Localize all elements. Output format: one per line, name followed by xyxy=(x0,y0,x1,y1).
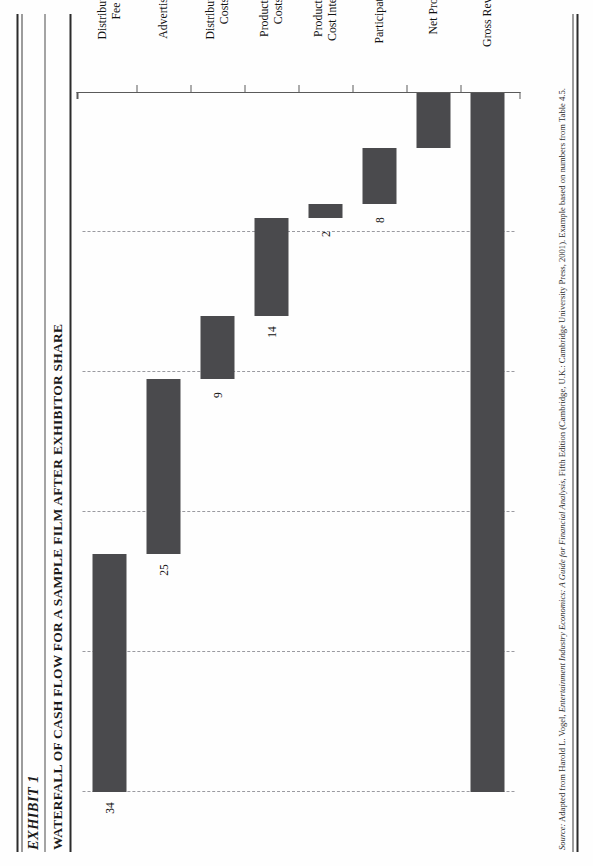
category-label-production-cost-interest: Production Cost Interest xyxy=(311,0,339,86)
rule-bottom-outer xyxy=(576,14,578,852)
bar-value-label: 25 xyxy=(157,564,169,576)
bar-value-label: 34 xyxy=(103,802,115,814)
exhibit-page: EXHIBIT 1 WATERFALL OF CASH FLOW FOR A S… xyxy=(0,0,593,866)
category-label-production-costs: Production Costs xyxy=(257,0,285,86)
rule-under-title xyxy=(69,14,71,852)
bar-production-cost-interest xyxy=(308,204,342,218)
category-axis-cap-bot xyxy=(519,92,521,99)
gridline-20 xyxy=(82,231,514,232)
gridline-100 xyxy=(82,791,514,792)
bar-value-label: 2 xyxy=(319,231,331,237)
exhibit-label: EXHIBIT 1 xyxy=(24,775,41,850)
category-tick xyxy=(460,85,461,92)
category-label-participations: Participations xyxy=(372,0,386,86)
bar-distribution-costs xyxy=(200,316,234,379)
bar-value-label: 9 xyxy=(211,392,223,398)
bar-value-label: 8 xyxy=(373,217,385,223)
rule-bottom-inner xyxy=(572,14,573,852)
source-prefix: Source: xyxy=(556,824,566,850)
category-tick xyxy=(352,85,353,92)
gridline-80 xyxy=(82,651,514,652)
source-note: Source: Adapted from Harold L. Vogel, En… xyxy=(555,16,567,850)
rotated-page-frame: EXHIBIT 1 WATERFALL OF CASH FLOW FOR A S… xyxy=(0,0,593,866)
bar-value-label: 14 xyxy=(265,326,277,338)
category-axis-cap-top xyxy=(76,92,78,99)
category-axis xyxy=(76,92,520,94)
waterfall-chart-plot-area: 342591428 Distribution FeeAdvertisingDis… xyxy=(82,92,514,792)
category-label-advertising: Advertising xyxy=(156,0,170,86)
bar-distribution-fee xyxy=(92,554,126,792)
category-tick xyxy=(190,85,191,92)
source-text-before-book: Adapted from Harold L. Vogel, xyxy=(556,712,566,823)
category-label-gross-revenue: Gross Revenue xyxy=(480,0,494,86)
category-tick xyxy=(406,85,407,92)
category-label-net-profit: Net Profit xyxy=(426,0,440,86)
category-tick xyxy=(298,85,299,92)
bar-production-costs xyxy=(254,218,288,316)
category-tick xyxy=(136,85,137,92)
bar-net-profit xyxy=(416,92,450,148)
source-text-after-book: , Fifth Edition (Cambridge, U.K.: Cambri… xyxy=(556,88,566,480)
rule-under-exhibit xyxy=(44,14,45,852)
gridline-40 xyxy=(82,371,514,372)
bar-participations xyxy=(362,148,396,204)
category-label-distribution-fee: Distribution Fee xyxy=(95,0,123,86)
category-tick xyxy=(244,85,245,92)
rule-top-outer xyxy=(16,14,18,852)
category-label-distribution-costs: Distribution Costs xyxy=(203,0,231,86)
source-book-title: Entertainment Industry Economics: A Guid… xyxy=(556,480,566,712)
rule-top-inner xyxy=(21,14,22,852)
bar-advertising xyxy=(146,379,180,554)
bar-gross-revenue xyxy=(470,92,504,792)
chart-title: WATERFALL OF CASH FLOW FOR A SAMPLE FILM… xyxy=(49,324,65,850)
